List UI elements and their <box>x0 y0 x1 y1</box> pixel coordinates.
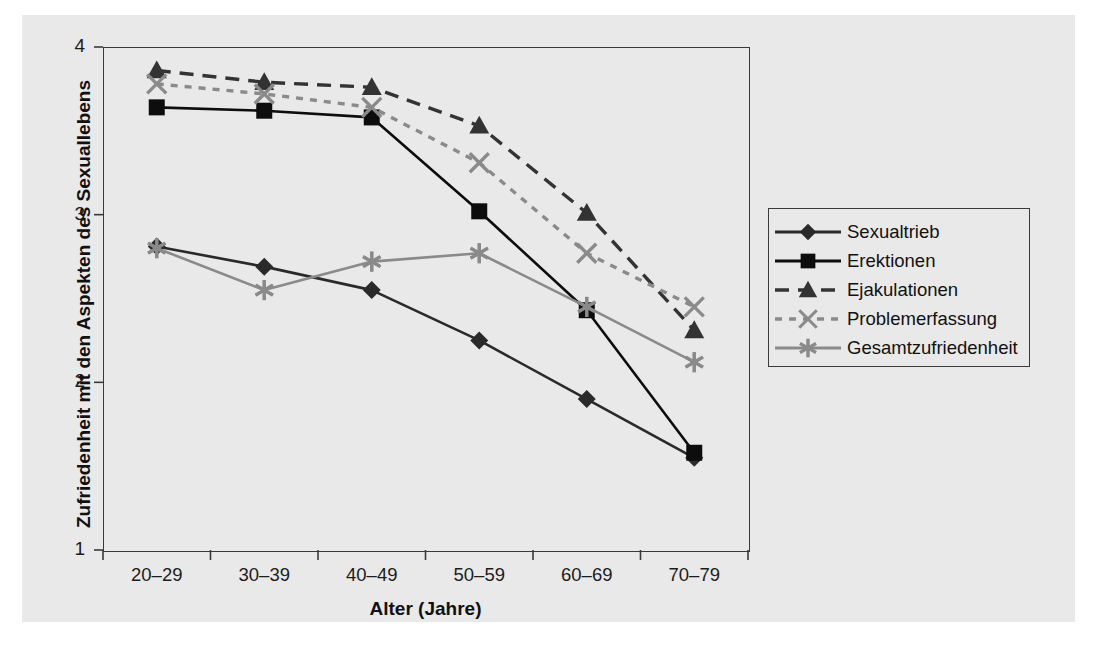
x-tick-label: 40–49 <box>318 564 426 586</box>
asterisk-marker <box>769 333 847 363</box>
diamond-marker <box>470 331 488 349</box>
legend-item-sexualtrieb[interactable]: Sexualtrieb <box>769 217 1029 247</box>
diamond-marker <box>769 217 847 247</box>
x-tick-label: 60–69 <box>533 564 641 586</box>
diamond-marker <box>255 258 273 276</box>
cross-x-marker <box>685 297 704 316</box>
legend-label: Ejakulationen <box>847 279 958 301</box>
asterisk-marker <box>686 352 703 372</box>
legend-item-problemerfassung[interactable]: Problemerfassung <box>769 304 1029 334</box>
triangle-marker <box>577 203 597 221</box>
square-marker <box>256 103 272 119</box>
cross-x-marker <box>769 304 847 334</box>
square-marker <box>769 246 847 276</box>
legend-item-ejakulationen[interactable]: Ejakulationen <box>769 275 1029 305</box>
legend-label: Gesamtzufriedenheit <box>847 337 1018 359</box>
square-marker <box>149 99 165 115</box>
diamond-marker <box>363 281 381 299</box>
data-series-layer <box>147 60 705 466</box>
x-tick-label: 70–79 <box>640 564 748 586</box>
chart-legend: SexualtriebErektionenEjakulationenProble… <box>768 208 1030 367</box>
legend-item-gesamtzufriedenheit[interactable]: Gesamtzufriedenheit <box>769 333 1029 363</box>
series-erektionen <box>149 99 703 460</box>
triangle-marker <box>769 275 847 305</box>
x-tick-label: 30–39 <box>210 564 318 586</box>
triangle-marker <box>684 320 704 338</box>
x-tick-label: 20–29 <box>103 564 211 586</box>
legend-label: Erektionen <box>847 250 935 272</box>
square-marker <box>686 445 702 461</box>
x-axis-title: Alter (Jahre) <box>103 598 748 620</box>
legend-label: Problemerfassung <box>847 308 997 330</box>
diamond-marker <box>800 224 817 241</box>
cross-x-marker <box>470 153 489 172</box>
square-marker <box>801 254 816 269</box>
cross-x-marker <box>577 244 596 263</box>
legend-item-erektionen[interactable]: Erektionen <box>769 246 1029 276</box>
cross-x-marker <box>799 310 816 327</box>
square-marker <box>471 203 487 219</box>
series-ejakulationen <box>147 60 705 338</box>
y-axis-title: Zufriedenheit mit den Aspekten des Sexua… <box>73 24 95 584</box>
axis-ticks <box>94 47 748 560</box>
asterisk-marker <box>256 280 273 300</box>
diamond-marker <box>578 390 596 408</box>
x-tick-label: 50–59 <box>425 564 533 586</box>
legend-label: Sexualtrieb <box>847 221 940 243</box>
chart-figure: 4321 20–2930–3940–4950–5960–6970–79 Alte… <box>0 0 1097 650</box>
